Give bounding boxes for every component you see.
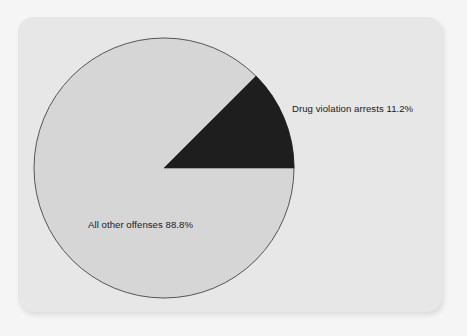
figure-root: Drug violation arrests 11.2% All other o… <box>0 0 467 336</box>
pie-label-all-other-offenses: All other offenses 88.8% <box>88 219 193 231</box>
pie-chart: Drug violation arrests 11.2% All other o… <box>0 0 467 336</box>
pie-chart-svg <box>0 0 467 336</box>
pie-label-drug-violation-arrests: Drug violation arrests 11.2% <box>292 103 413 115</box>
